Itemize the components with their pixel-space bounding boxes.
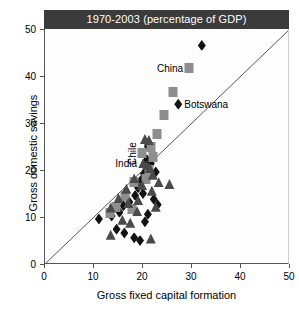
data-point-triangle [164, 179, 174, 189]
x-tick-label: 30 [185, 271, 196, 282]
data-point-triangle [125, 218, 135, 228]
chart-page: 1970-2003 (percentage of GDP) ChinaBotsw… [0, 0, 299, 309]
data-point-diamond [174, 99, 182, 110]
data-point-square [185, 63, 194, 73]
y-tick [40, 29, 44, 30]
y-tick-label: 50 [25, 24, 36, 35]
y-tick-label: 40 [25, 71, 36, 82]
y-tick-label: 0 [30, 259, 36, 270]
data-point-square [159, 110, 168, 120]
chart-title: 1970-2003 (percentage of GDP) [44, 10, 289, 29]
x-tick [44, 264, 45, 268]
x-tick-label: 40 [234, 271, 245, 282]
x-tick [142, 264, 143, 268]
y-tick [40, 264, 44, 265]
x-tick [191, 264, 192, 268]
x-tick-label: 10 [87, 271, 98, 282]
x-tick [93, 264, 94, 268]
data-point-square [152, 129, 161, 139]
point-label-botswana: Botswana [184, 99, 228, 110]
data-point-square [148, 152, 157, 162]
y-tick [40, 217, 44, 218]
plot-area: ChinaBotswanaIndiaChile [45, 29, 288, 263]
y-tick [40, 76, 44, 77]
data-point-diamond [95, 213, 103, 224]
data-point-square [169, 87, 178, 97]
data-point-square [138, 148, 147, 158]
y-tick-label: 30 [25, 118, 36, 129]
point-label-china: China [157, 63, 183, 74]
data-point-diamond [113, 224, 121, 235]
y-tick [40, 123, 44, 124]
y-tick-label: 10 [25, 212, 36, 223]
x-axis-label: Gross fixed capital formation [44, 289, 289, 301]
x-tick [289, 264, 290, 268]
x-tick [240, 264, 241, 268]
data-point-triangle [146, 234, 156, 244]
x-tick-label: 50 [283, 271, 294, 282]
y-tick-label: 20 [25, 165, 36, 176]
data-point-diamond [198, 40, 206, 51]
x-tick-label: 0 [41, 271, 47, 282]
y-tick [40, 170, 44, 171]
plot-frame: ChinaBotswanaIndiaChile [44, 29, 289, 264]
data-point-diamond [120, 227, 128, 238]
x-tick-label: 20 [136, 271, 147, 282]
point-label-chile: Chile [127, 142, 138, 165]
